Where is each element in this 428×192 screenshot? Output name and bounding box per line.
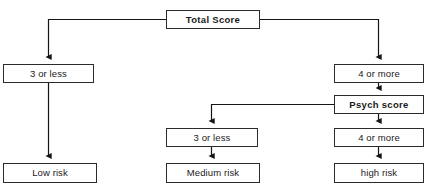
flowchart-canvas: Total Score 3 or less 4 or more Psych sc… [0, 0, 428, 192]
node-psych-4-or-more-label: 4 or more [358, 133, 400, 143]
node-total-score-label: Total Score [186, 15, 240, 25]
node-psych-score-label: Psych score [349, 100, 408, 110]
node-high-risk[interactable]: high risk [334, 163, 424, 183]
edge-total-to-left [49, 20, 167, 58]
node-medium-risk-label: Medium risk [187, 168, 239, 178]
node-left-3-or-less-label: 3 or less [30, 69, 67, 79]
node-total-score[interactable]: Total Score [166, 10, 260, 29]
node-left-3-or-less[interactable]: 3 or less [3, 64, 94, 83]
node-right-4-or-more-label: 4 or more [358, 69, 400, 79]
node-psych-4-or-more[interactable]: 4 or more [334, 128, 424, 147]
edge-psych-to-mid3 [212, 105, 335, 122]
node-low-risk[interactable]: Low risk [3, 163, 97, 183]
node-low-risk-label: Low risk [32, 168, 68, 178]
node-mid-3-or-less[interactable]: 3 or less [166, 128, 258, 147]
node-mid-3-or-less-label: 3 or less [194, 133, 231, 143]
node-high-risk-label: high risk [361, 168, 397, 178]
edge-total-to-right [260, 20, 379, 58]
node-right-4-or-more[interactable]: 4 or more [334, 64, 424, 83]
node-psych-score[interactable]: Psych score [334, 95, 424, 114]
node-medium-risk[interactable]: Medium risk [166, 163, 260, 183]
